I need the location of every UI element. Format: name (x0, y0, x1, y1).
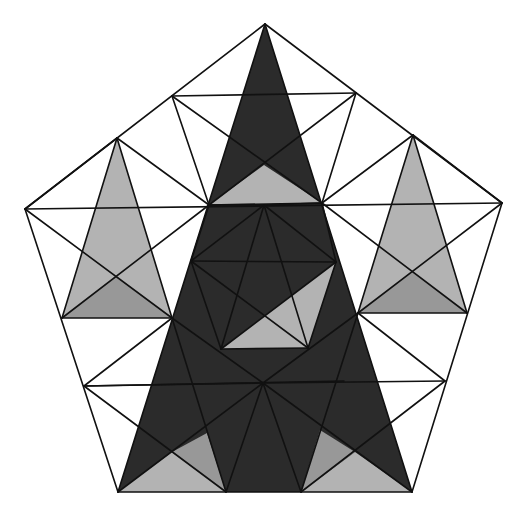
pentagon-tiling-svg (0, 0, 524, 515)
edge-line (191, 261, 336, 262)
edge-line (221, 348, 308, 349)
pentagon-diagram (0, 0, 524, 515)
